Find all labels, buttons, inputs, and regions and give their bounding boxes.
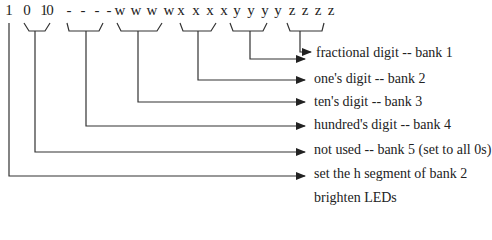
- label-tens-digit: ten's digit -- bank 3: [314, 94, 422, 110]
- label-fractional-digit: fractional digit -- bank 1: [316, 45, 453, 61]
- label-brighten-leds: brighten LEDs: [314, 190, 397, 206]
- label-hundreds-digit: hundred's digit -- bank 4: [314, 117, 451, 133]
- label-h-segment: set the h segment of bank 2: [314, 166, 467, 182]
- label-ones-digit: one's digit -- bank 2: [314, 71, 425, 87]
- label-not-used: not used -- bank 5 (set to all 0s): [314, 142, 491, 158]
